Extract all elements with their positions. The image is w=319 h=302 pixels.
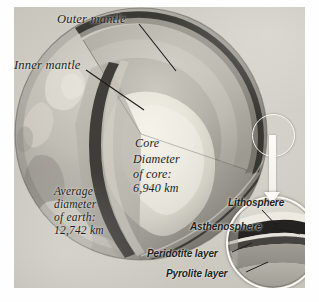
core-diameter-value: 6,940 km <box>133 181 180 196</box>
label-inner-mantle: Inner mantle <box>14 58 81 73</box>
page-edge-bottom <box>0 288 319 302</box>
label-outer-mantle: Outer mantle <box>57 12 126 27</box>
crust-detail-inset <box>226 196 306 289</box>
core-diameter-line-1: Diameter <box>133 152 180 167</box>
label-lithosphere: Lithosphere <box>228 197 284 208</box>
avg-line-2: diameter <box>54 198 104 211</box>
label-core: Core <box>135 136 159 151</box>
label-peridotite-layer: Peridotite layer <box>147 248 218 259</box>
inset-layers <box>228 198 306 288</box>
page-edge-left <box>0 0 14 302</box>
figure-canvas: Outer mantle Inner mantle Core Diameter … <box>0 0 319 302</box>
label-asthenosphere: Asthenosphere <box>190 221 262 232</box>
magnifier-arrow-shaft <box>269 135 276 195</box>
label-average-diameter: Average diameter of earth: 12,742 km <box>54 185 104 237</box>
label-pyrolite-layer: Pyrolite layer <box>166 268 227 279</box>
avg-line-1: Average <box>54 185 104 198</box>
avg-line-3: of earth: <box>54 211 104 224</box>
page-edge-right <box>305 0 319 302</box>
avg-diameter-value: 12,742 km <box>54 224 104 237</box>
label-core-diameter: Diameter of core: 6,940 km <box>133 152 180 196</box>
core-diameter-line-2: of core: <box>133 167 180 182</box>
page-edge-top <box>0 0 319 7</box>
